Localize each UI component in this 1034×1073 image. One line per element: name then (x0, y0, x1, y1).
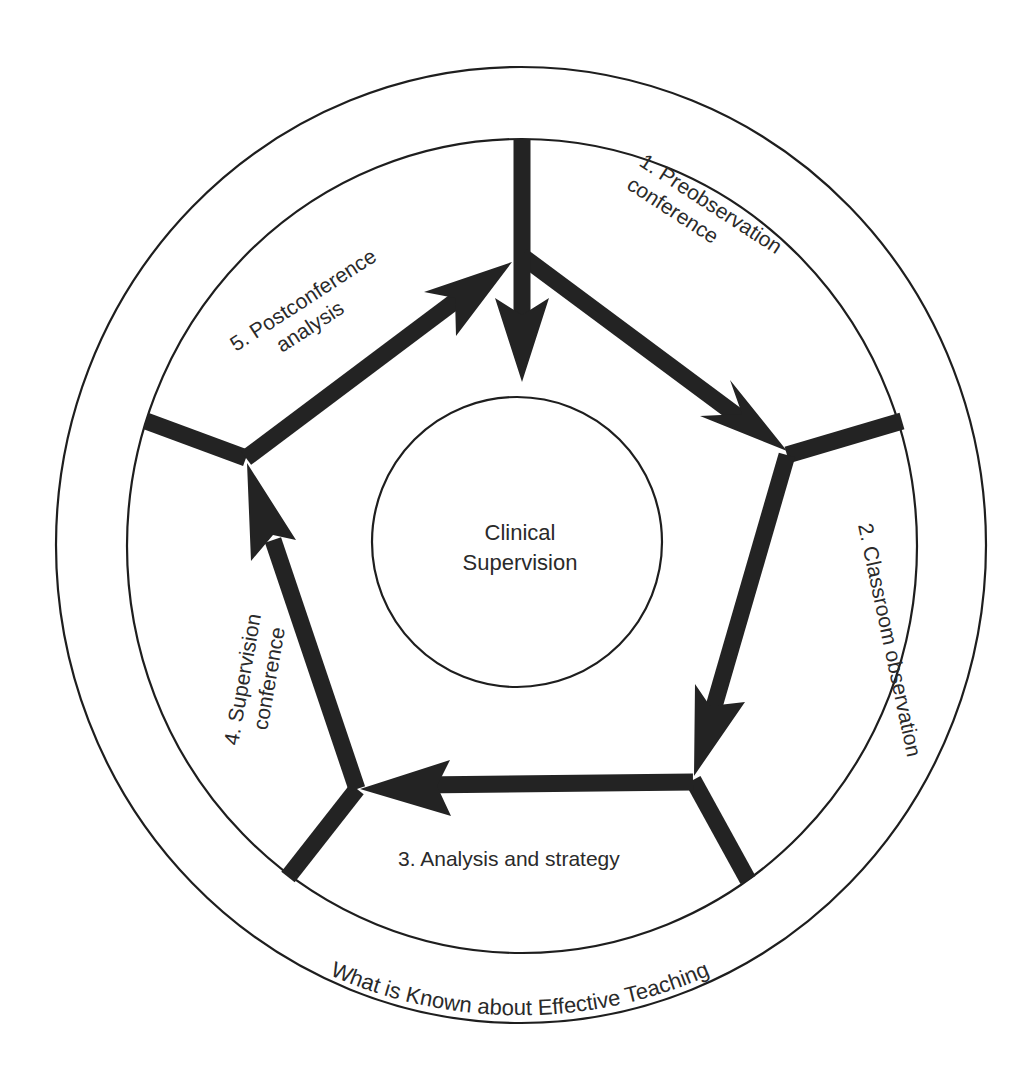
arrow-shaft-3 (420, 782, 693, 785)
step-4-label: 4. Supervision conference (219, 612, 290, 752)
step-1-label: 1. Preobservation conference (622, 149, 787, 280)
arrow-shaft-2 (713, 455, 787, 710)
center-label-line2: Supervision (463, 550, 578, 575)
center-label-line1: Clinical (485, 520, 556, 545)
outer-ring-label: What is Known about Effective Teaching (328, 957, 713, 1021)
arrow-shaft-1 (522, 256, 740, 418)
step-3-label: 3. Analysis and strategy (398, 847, 620, 870)
spoke-right (787, 421, 902, 455)
step-2-label: 2. Classroom observation (854, 521, 926, 759)
spoke-bottom-left (288, 789, 357, 877)
spoke-bottom-right (693, 780, 748, 880)
spoke-left (146, 421, 246, 458)
step-2-line1: 2. Classroom observation (854, 521, 926, 759)
clinical-supervision-diagram: Clinical Supervision 1. Preobservation c… (0, 0, 1034, 1073)
outer-ring-label-path: What is Known about Effective Teaching (328, 957, 713, 1021)
arrow-shaft-4 (273, 540, 357, 789)
arrow-head-3-icon (360, 760, 451, 816)
